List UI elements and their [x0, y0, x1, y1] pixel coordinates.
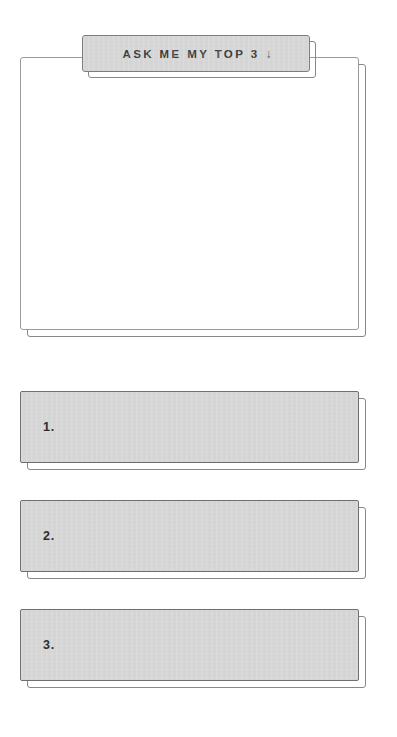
answer-row-number: 1. — [43, 420, 55, 434]
note-card[interactable] — [20, 57, 359, 330]
arrow-down-icon: ↓ — [265, 47, 271, 61]
header-tab-label: ASK ME MY TOP 3 — [121, 48, 260, 60]
answer-row[interactable]: 3. — [20, 609, 359, 681]
answer-row-number: 2. — [43, 529, 55, 543]
answer-input[interactable] — [69, 610, 348, 680]
answer-input[interactable] — [69, 392, 348, 462]
answer-row-number: 3. — [43, 638, 55, 652]
page-root: ASK ME MY TOP 3 ↓ 1. 2. 3. — [0, 0, 397, 737]
header-tab[interactable]: ASK ME MY TOP 3 ↓ — [82, 35, 310, 72]
answer-row[interactable]: 1. — [20, 391, 359, 463]
note-card-writing-area[interactable] — [21, 58, 358, 329]
answer-input[interactable] — [69, 501, 348, 571]
answer-row[interactable]: 2. — [20, 500, 359, 572]
